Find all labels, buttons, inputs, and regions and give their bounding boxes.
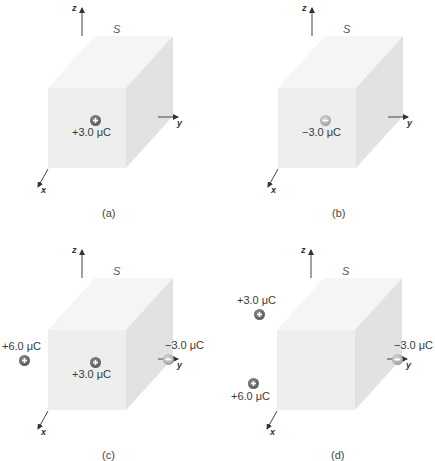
negative-charge-icon bbox=[392, 354, 403, 365]
charge-label: +3.0 μC bbox=[72, 126, 111, 138]
charge-label: +3.0 μC bbox=[237, 294, 276, 306]
diagram-panel-d: z y x S (d) +3.0 μC +6.0 μC −3.0 μC bbox=[217, 230, 434, 459]
x-axis-label: x bbox=[271, 185, 276, 195]
z-axis-label: z bbox=[72, 245, 77, 255]
charge-label: +6.0 μC bbox=[2, 340, 41, 352]
negative-charge-icon bbox=[163, 354, 174, 365]
y-axis-label: y bbox=[406, 360, 411, 370]
positive-charge-icon bbox=[248, 378, 259, 389]
z-axis-label: z bbox=[301, 245, 306, 255]
surface-label: S bbox=[343, 23, 350, 35]
x-axis-label: x bbox=[41, 427, 46, 437]
charge-label: −3.0 μC bbox=[394, 339, 433, 351]
charge-label: +6.0 μC bbox=[231, 390, 270, 402]
positive-charge-icon bbox=[19, 355, 30, 366]
panel-caption: (a) bbox=[102, 207, 115, 219]
surface-label: S bbox=[342, 265, 349, 277]
cube-diagram bbox=[0, 0, 217, 229]
charge-label: −3.0 μC bbox=[165, 339, 204, 351]
panel-caption: (b) bbox=[332, 207, 345, 219]
surface-label: S bbox=[113, 265, 120, 277]
diagram-panel-b: z y x S (b) −3.0 μC bbox=[217, 0, 434, 229]
positive-charge-icon bbox=[90, 115, 101, 126]
charge-label: +3.0 μC bbox=[72, 368, 111, 380]
y-axis-label: y bbox=[177, 118, 182, 128]
negative-charge-icon bbox=[320, 115, 331, 126]
surface-label: S bbox=[113, 23, 120, 35]
z-axis-label: z bbox=[302, 3, 307, 13]
x-axis-label: x bbox=[270, 427, 275, 437]
charge-label: −3.0 μC bbox=[302, 126, 341, 138]
y-axis-label: y bbox=[177, 360, 182, 370]
cube-front-face bbox=[277, 330, 355, 410]
panel-caption: (c) bbox=[102, 449, 115, 461]
positive-charge-icon bbox=[254, 309, 265, 320]
y-axis-label: y bbox=[407, 118, 412, 128]
x-axis-label: x bbox=[41, 185, 46, 195]
diagram-panel-c: z y x S (c) +3.0 μC +6.0 μC −3.0 μC bbox=[0, 230, 217, 459]
z-axis-label: z bbox=[72, 3, 77, 13]
diagram-panel-a: z y x S (a) +3.0 μC bbox=[0, 0, 217, 229]
positive-charge-icon bbox=[90, 357, 101, 368]
panel-caption: (d) bbox=[331, 449, 344, 461]
